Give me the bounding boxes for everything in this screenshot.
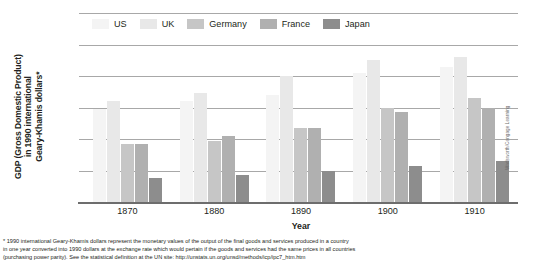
y-axis-title: GDP (Gross Domestic Product) in 1990 int… [13,14,44,219]
bar-us-1910 [440,67,453,202]
legend-item-japan: Japan [323,19,370,29]
y-axis-title-line-3: Geary-Khamis dollars* [34,14,44,219]
y-axis-title-line-1: GDP (Gross Domestic Product) [13,14,23,219]
bar-uk-1900 [367,60,380,202]
legend-label-uk: UK [162,19,175,29]
x-axis-title: Year [84,221,518,231]
bar-group [344,13,431,202]
legend-swatch-germany [187,19,204,29]
bar-japan-1870 [149,178,162,202]
bar-germany-1900 [381,108,394,203]
x-axis-line [78,202,518,204]
chart-legend: USUKGermanyFranceJapan [92,19,383,29]
bar-uk-1870 [107,101,120,202]
legend-swatch-us [92,19,109,29]
bar-france-1900 [395,112,408,202]
bar-germany-1910 [468,98,481,202]
legend-swatch-uk [140,19,157,29]
bar-uk-1880 [194,93,207,202]
x-axis-tick-label: 1910 [431,206,518,216]
x-axis-tick-label: 1890 [258,206,345,216]
legend-item-us: US [92,19,127,29]
bar-us-1880 [180,101,193,202]
legend-item-france: France [260,19,310,29]
bar-france-1910 [482,108,495,203]
legend-label-germany: Germany [209,19,246,29]
footnote-line-3: (purchasing power parity). See the stati… [3,254,525,262]
bar-germany-1880 [208,141,221,202]
bar-france-1880 [222,136,235,202]
x-axis-tick-labels: 18701880189019001910 [84,206,518,216]
bar-france-1870 [135,144,148,202]
publisher-credit: Wadsworth/Cengage Learning [505,70,510,170]
footnote: * 1990 international Geary-Khamis dollar… [3,238,525,262]
legend-swatch-france [260,19,277,29]
x-axis-tick-label: 1870 [84,206,171,216]
bar-uk-1890 [280,76,293,202]
y-axis-title-line-2: in 1990 international [23,14,33,219]
legend-label-france: France [282,19,310,29]
bar-japan-1880 [236,175,249,202]
bar-us-1890 [266,95,279,202]
legend-swatch-japan [323,19,340,29]
plot-area [84,13,518,202]
legend-label-us: US [114,19,127,29]
footnote-line-2: in one year converted into 1990 dollars … [3,246,525,254]
bar-us-1870 [93,109,106,202]
bar-group [171,13,258,202]
chart-figure: GDP (Gross Domestic Product) in 1990 int… [0,0,548,277]
bar-germany-1890 [294,128,307,202]
legend-label-japan: Japan [345,19,370,29]
bar-uk-1910 [454,57,467,202]
x-axis-tick-label: 1880 [171,206,258,216]
bar-group [84,13,171,202]
bar-groups [84,13,518,202]
footnote-line-1: * 1990 international Geary-Khamis dollar… [3,238,525,246]
bar-germany-1870 [121,144,134,202]
bar-france-1890 [308,128,321,202]
legend-item-uk: UK [140,19,175,29]
x-axis-tick-label: 1900 [344,206,431,216]
bar-japan-1900 [409,166,422,202]
bar-group [258,13,345,202]
bar-japan-1890 [322,171,335,203]
legend-item-germany: Germany [187,19,246,29]
bar-us-1900 [353,73,366,202]
